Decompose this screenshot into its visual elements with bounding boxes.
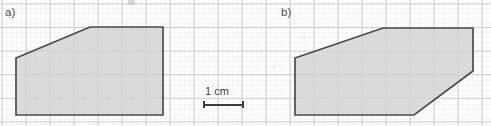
worksheet-figure: a) b) 1 cm [0, 0, 491, 126]
polygon-b [295, 28, 473, 115]
scale-bar-line [203, 104, 244, 106]
scale-bar-tick-left [203, 101, 205, 108]
scale-bar-tick-right [242, 101, 244, 108]
scale-bar-rule [203, 101, 244, 108]
scale-bar-label: 1 cm [205, 86, 229, 97]
scale-bar: 1 cm [201, 86, 247, 108]
figure-label-a: a) [5, 7, 16, 19]
figure-label-b: b) [281, 7, 292, 19]
polygon-a [16, 27, 163, 115]
